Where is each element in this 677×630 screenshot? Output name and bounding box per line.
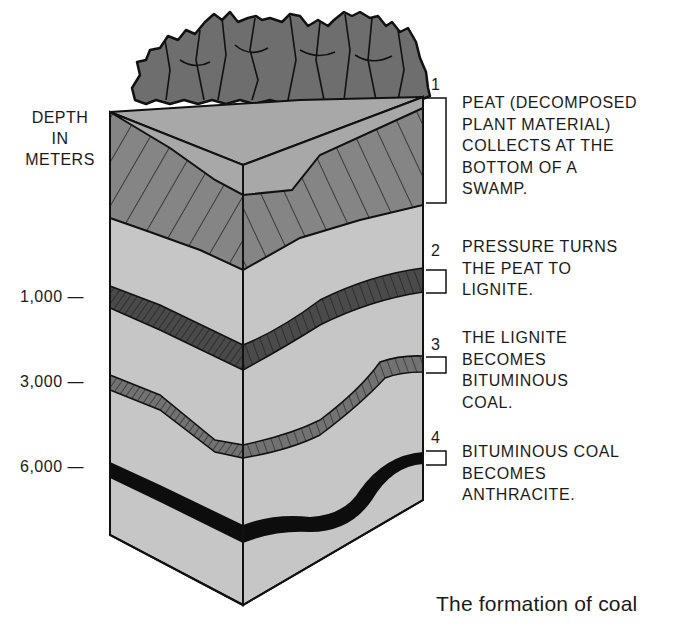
step-brackets [426,98,446,465]
step-3-description: THE LIGNITE BECOMES BITUMINOUS COAL. [462,327,568,413]
depth-axis-title: DEPTH IN METERS [10,107,110,170]
step-number-1: 1 [431,76,440,94]
step-number-3: 3 [431,336,440,354]
figure-caption: The formation of coal [436,592,637,616]
depth-tick-6000: 6,000 — [20,458,84,476]
depth-tick-1000: 1,000 — [20,288,84,306]
depth-tick-3000: 3,000 — [20,373,84,391]
step-1-description: PEAT (DECOMPOSED PLANT MATERIAL) COLLECT… [462,92,637,200]
step-number-2: 2 [431,242,440,260]
forest-trees [132,12,430,104]
step-2-description: PRESSURE TURNS THE PEAT TO LIGNITE. [462,236,618,301]
step-4-description: BITUMINOUS COAL BECOMES ANTHRACITE. [462,441,619,506]
step-number-4: 4 [431,429,440,447]
